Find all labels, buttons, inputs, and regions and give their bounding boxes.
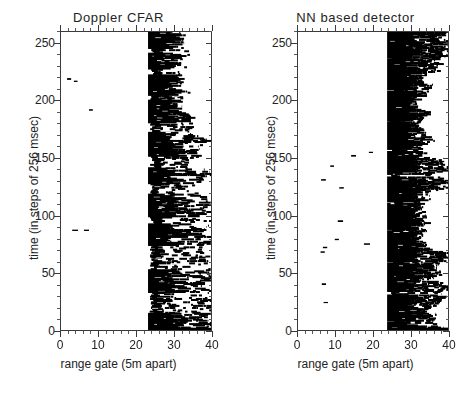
- x-tick-minor: [434, 331, 435, 334]
- y-tick-minor: [294, 54, 297, 55]
- detection-map-left: [61, 32, 211, 330]
- x-tick-minor: [90, 331, 91, 334]
- x-tick-minor: [151, 331, 152, 334]
- y-tick-minor: [209, 308, 212, 309]
- y-tick-minor: [57, 296, 60, 297]
- x-tick-minor: [365, 331, 366, 334]
- y-tick-label: 150: [15, 151, 55, 165]
- y-tick-mark: [443, 216, 449, 217]
- y-tick-minor: [294, 296, 297, 297]
- x-tick-minor: [128, 28, 129, 31]
- y-tick-mark: [291, 100, 297, 101]
- x-tick-label: 10: [78, 338, 118, 352]
- y-tick-mark: [206, 100, 212, 101]
- y-tick-minor: [294, 169, 297, 170]
- x-tick-minor: [305, 28, 306, 31]
- y-tick-minor: [209, 193, 212, 194]
- x-tick-mark: [335, 331, 336, 337]
- x-tick-minor: [419, 28, 420, 31]
- x-tick-minor: [358, 28, 359, 31]
- y-tick-minor: [57, 112, 60, 113]
- y-tick-minor: [446, 250, 449, 251]
- x-tick-minor: [166, 28, 167, 31]
- x-tick-mark: [60, 25, 61, 31]
- y-tick-minor: [209, 89, 212, 90]
- y-tick-minor: [209, 54, 212, 55]
- y-tick-minor: [209, 123, 212, 124]
- y-tick-minor: [294, 308, 297, 309]
- x-tick-mark: [136, 331, 137, 337]
- x-tick-minor: [441, 331, 442, 334]
- x-tick-minor: [312, 28, 313, 31]
- y-tick-label: 150: [252, 151, 292, 165]
- y-tick-minor: [446, 123, 449, 124]
- y-tick-mark: [291, 216, 297, 217]
- x-tick-minor: [182, 28, 183, 31]
- y-tick-mark: [291, 43, 297, 44]
- y-tick-mark: [54, 43, 60, 44]
- y-tick-mark: [206, 273, 212, 274]
- x-tick-minor: [121, 28, 122, 31]
- radar-detection-figure: Doppler CFAR time (in steps of 256 msec)…: [0, 0, 474, 400]
- x-tick-minor: [358, 331, 359, 334]
- y-tick-mark: [206, 43, 212, 44]
- y-tick-minor: [57, 66, 60, 67]
- x-tick-minor: [159, 331, 160, 334]
- y-tick-minor: [57, 308, 60, 309]
- y-tick-minor: [446, 319, 449, 320]
- y-tick-minor: [294, 285, 297, 286]
- y-tick-minor: [57, 31, 60, 32]
- y-tick-minor: [209, 66, 212, 67]
- x-tick-minor: [396, 331, 397, 334]
- y-tick-minor: [209, 250, 212, 251]
- y-tick-mark: [443, 158, 449, 159]
- x-tick-minor: [388, 331, 389, 334]
- y-tick-minor: [294, 262, 297, 263]
- x-tick-minor: [68, 331, 69, 334]
- x-axis-label-left: range gate (5m apart): [0, 357, 237, 371]
- x-tick-minor: [320, 331, 321, 334]
- x-tick-minor: [343, 28, 344, 31]
- x-tick-label: 20: [353, 338, 393, 352]
- y-tick-label: 50: [15, 266, 55, 280]
- x-tick-minor: [83, 331, 84, 334]
- y-tick-minor: [209, 112, 212, 113]
- y-tick-minor: [446, 296, 449, 297]
- x-tick-minor: [396, 28, 397, 31]
- x-tick-mark: [98, 331, 99, 337]
- plot-area-right: [297, 31, 449, 331]
- x-tick-minor: [388, 28, 389, 31]
- x-tick-mark: [174, 331, 175, 337]
- y-tick-minor: [294, 135, 297, 136]
- y-tick-minor: [446, 31, 449, 32]
- y-tick-label: 100: [252, 209, 292, 223]
- y-tick-label: 200: [15, 93, 55, 107]
- x-tick-mark: [373, 331, 374, 337]
- y-tick-minor: [294, 146, 297, 147]
- y-tick-minor: [294, 250, 297, 251]
- y-tick-mark: [443, 273, 449, 274]
- x-tick-mark: [411, 25, 412, 31]
- detection-map-right: [298, 32, 448, 330]
- x-tick-label: 30: [154, 338, 194, 352]
- y-tick-minor: [209, 204, 212, 205]
- y-tick-minor: [209, 239, 212, 240]
- panel-title-right: NN based detector: [237, 10, 474, 25]
- y-tick-minor: [209, 285, 212, 286]
- x-tick-minor: [320, 28, 321, 31]
- y-tick-minor: [57, 239, 60, 240]
- x-tick-mark: [297, 331, 298, 337]
- y-tick-minor: [209, 296, 212, 297]
- x-tick-mark: [335, 25, 336, 31]
- y-tick-minor: [446, 54, 449, 55]
- x-tick-minor: [90, 28, 91, 31]
- y-tick-minor: [57, 123, 60, 124]
- y-tick-minor: [57, 54, 60, 55]
- y-tick-minor: [446, 112, 449, 113]
- y-tick-minor: [294, 181, 297, 182]
- y-tick-minor: [57, 181, 60, 182]
- x-tick-minor: [189, 28, 190, 31]
- x-tick-minor: [113, 331, 114, 334]
- y-tick-mark: [291, 273, 297, 274]
- y-tick-minor: [57, 227, 60, 228]
